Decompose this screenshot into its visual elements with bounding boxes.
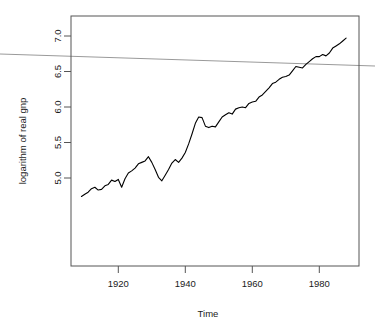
x-tick-label-1920: 1920 <box>108 278 129 289</box>
chart-canvas: 7.0 6.5 6.0 5.5 5.0 1920 1940 1960 1980 … <box>0 0 375 331</box>
x-tick-label-1960: 1960 <box>242 278 263 289</box>
y-tick-label-5-0: 5.0 <box>52 171 63 184</box>
x-tick-label-1980: 1980 <box>309 278 330 289</box>
x-axis-title: Time <box>198 308 219 319</box>
x-tick-label-1940: 1940 <box>175 278 196 289</box>
y-axis-title: logarithm of real gnp <box>17 98 28 185</box>
gnp-time-series-plot: 7.0 6.5 6.0 5.5 5.0 1920 1940 1960 1980 … <box>0 0 375 331</box>
y-tick-label-6-0: 6.0 <box>52 100 63 113</box>
y-tick-label-6-5: 6.5 <box>52 65 63 78</box>
y-tick-label-7-0: 7.0 <box>52 29 63 42</box>
y-tick-label-5-5: 5.5 <box>52 136 63 149</box>
